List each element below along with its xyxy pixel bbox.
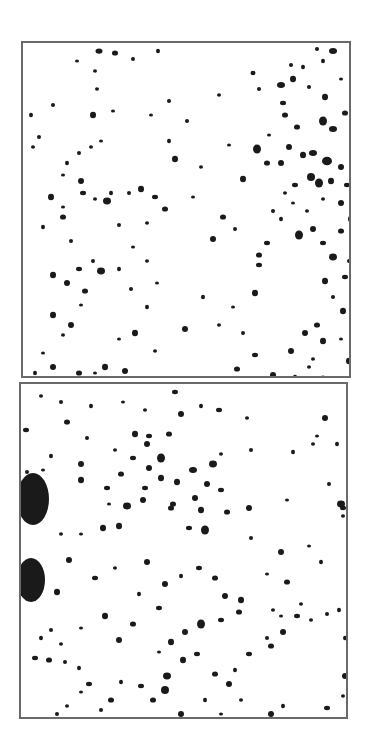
particle bbox=[144, 559, 150, 565]
particle bbox=[233, 668, 237, 672]
particle bbox=[163, 673, 171, 680]
particle bbox=[123, 503, 131, 510]
particle bbox=[61, 333, 65, 336]
particle bbox=[291, 202, 295, 205]
particle bbox=[328, 178, 334, 185]
particle bbox=[23, 428, 29, 433]
particle bbox=[341, 694, 345, 697]
particle bbox=[219, 713, 223, 716]
particle bbox=[99, 140, 103, 143]
particle bbox=[41, 469, 45, 472]
particle bbox=[251, 71, 256, 75]
particle bbox=[197, 620, 205, 629]
particle bbox=[60, 214, 66, 219]
particle-field-top bbox=[23, 43, 349, 376]
particle bbox=[130, 456, 136, 461]
particle bbox=[315, 435, 319, 438]
particle bbox=[271, 209, 275, 213]
particle bbox=[340, 308, 346, 315]
particle bbox=[144, 441, 150, 447]
particle bbox=[121, 401, 125, 404]
particle bbox=[226, 681, 232, 687]
particle bbox=[241, 331, 245, 335]
particle bbox=[192, 495, 198, 501]
particle bbox=[118, 471, 124, 476]
particle bbox=[347, 259, 349, 263]
particle bbox=[219, 452, 223, 455]
particle bbox=[119, 680, 123, 684]
particle bbox=[111, 110, 115, 113]
particle bbox=[113, 448, 117, 451]
particle bbox=[76, 267, 82, 272]
particle bbox=[337, 608, 341, 612]
particle bbox=[322, 415, 328, 421]
particle bbox=[31, 145, 35, 148]
particle bbox=[339, 338, 343, 341]
particle bbox=[172, 390, 178, 395]
particle bbox=[278, 549, 284, 555]
particle bbox=[348, 216, 349, 223]
particle bbox=[41, 225, 45, 229]
particle bbox=[108, 697, 114, 702]
particle bbox=[117, 223, 121, 227]
particle bbox=[218, 488, 224, 493]
particle bbox=[338, 164, 344, 170]
particle bbox=[268, 643, 274, 648]
particle bbox=[264, 241, 270, 246]
particle bbox=[327, 482, 331, 486]
particle bbox=[322, 278, 328, 285]
particle bbox=[329, 126, 337, 132]
particle bbox=[329, 254, 337, 261]
particle bbox=[107, 503, 111, 506]
particle bbox=[145, 259, 149, 262]
particle bbox=[162, 581, 168, 587]
particle bbox=[59, 642, 63, 645]
particle bbox=[212, 671, 218, 676]
particle bbox=[307, 85, 311, 89]
particle bbox=[186, 526, 192, 531]
particle bbox=[256, 252, 262, 257]
particle bbox=[39, 636, 43, 640]
particle bbox=[51, 103, 55, 107]
particle bbox=[224, 509, 230, 514]
particle bbox=[338, 200, 344, 206]
particle bbox=[61, 206, 65, 209]
particle bbox=[203, 698, 207, 702]
particle bbox=[245, 416, 249, 419]
particle bbox=[116, 637, 122, 643]
particle bbox=[140, 497, 146, 503]
particle bbox=[246, 505, 252, 511]
particle bbox=[331, 295, 335, 299]
particle bbox=[131, 57, 135, 61]
particle bbox=[291, 450, 295, 454]
particle bbox=[343, 636, 346, 640]
particle bbox=[91, 259, 95, 263]
particle bbox=[90, 112, 96, 119]
particle bbox=[236, 609, 242, 614]
particle bbox=[277, 82, 285, 88]
particle bbox=[152, 195, 158, 200]
particle bbox=[75, 60, 79, 63]
particle bbox=[113, 566, 117, 569]
particle bbox=[109, 191, 113, 195]
particle bbox=[338, 228, 344, 233]
particle bbox=[93, 69, 97, 72]
particle bbox=[95, 87, 99, 90]
particle bbox=[270, 372, 276, 376]
particle bbox=[321, 59, 325, 63]
particle bbox=[117, 338, 121, 341]
particle bbox=[82, 288, 88, 293]
particle bbox=[281, 704, 285, 708]
particle bbox=[285, 499, 289, 502]
particle bbox=[156, 606, 162, 611]
particle bbox=[85, 436, 89, 440]
particle bbox=[178, 411, 184, 417]
particle bbox=[319, 117, 327, 126]
particle bbox=[178, 711, 184, 717]
particle bbox=[315, 47, 319, 51]
particle bbox=[322, 94, 328, 101]
particle bbox=[78, 477, 84, 484]
particle bbox=[209, 461, 217, 468]
particle bbox=[271, 608, 275, 611]
particle bbox=[157, 454, 165, 463]
